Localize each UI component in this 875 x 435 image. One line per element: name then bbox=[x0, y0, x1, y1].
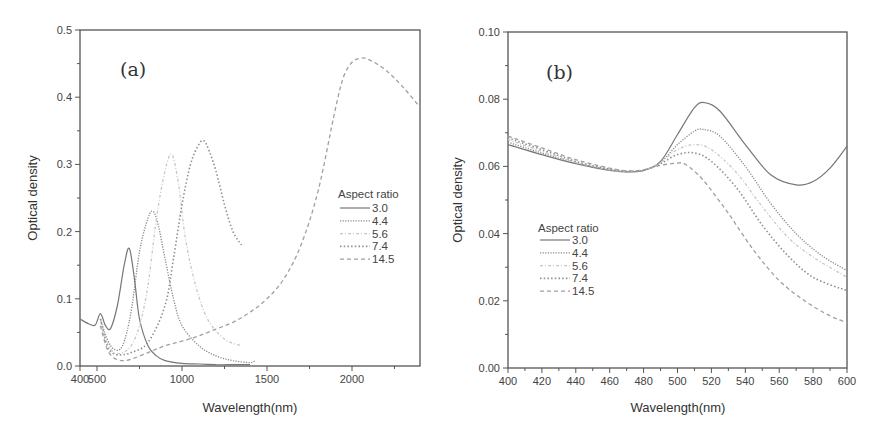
legend-item-label: 3.0 bbox=[372, 202, 388, 214]
y-tick-label: 0.06 bbox=[479, 160, 500, 172]
panel-b-label: (b) bbox=[546, 61, 573, 83]
panel-b: 0.000.020.040.060.080.104004204404604805… bbox=[450, 26, 856, 415]
y-tick-label: 0.2 bbox=[57, 226, 72, 238]
x-tick-label: 460 bbox=[601, 375, 619, 387]
legend-item-label: 5.6 bbox=[572, 260, 588, 272]
legend-item-label: 14.5 bbox=[572, 285, 594, 297]
panel-a-series bbox=[80, 58, 420, 365]
y-tick-label: 0.08 bbox=[479, 93, 500, 105]
panel-a-legend: Aspect ratio 3.04.45.67.414.5 bbox=[338, 188, 399, 265]
series-line-7-4 bbox=[508, 138, 847, 291]
x-tick-label: 1000 bbox=[170, 373, 194, 385]
legend-item-label: 7.4 bbox=[572, 272, 589, 284]
panel-a: 0.00.10.20.30.40.5400500100015002000 (a)… bbox=[25, 24, 420, 415]
x-tick-label: 420 bbox=[533, 375, 551, 387]
x-tick-label: 520 bbox=[702, 375, 720, 387]
y-tick-label: 0.1 bbox=[57, 293, 72, 305]
x-tick-label: 400 bbox=[71, 373, 89, 385]
x-tick-label: 400 bbox=[499, 375, 517, 387]
y-tick-label: 0.02 bbox=[479, 295, 500, 307]
x-tick-label: 540 bbox=[736, 375, 754, 387]
legend-item-label: 4.4 bbox=[372, 215, 389, 227]
x-tick-label: 560 bbox=[770, 375, 788, 387]
y-tick-label: 0.5 bbox=[57, 24, 72, 36]
panel-a-legend-title: Aspect ratio bbox=[338, 188, 399, 200]
y-tick-label: 0.10 bbox=[479, 26, 500, 38]
legend-item-label: 5.6 bbox=[372, 228, 388, 240]
x-tick-label: 1500 bbox=[255, 373, 279, 385]
x-tick-label: 500 bbox=[668, 375, 686, 387]
series-line-3-0 bbox=[508, 102, 847, 185]
panel-b-series bbox=[508, 102, 847, 322]
x-tick-label: 440 bbox=[567, 375, 585, 387]
x-tick-label: 600 bbox=[838, 375, 856, 387]
y-tick-label: 0.4 bbox=[57, 91, 72, 103]
x-tick-label: 480 bbox=[634, 375, 652, 387]
series-line-7-4 bbox=[100, 140, 241, 354]
y-tick-label: 0.04 bbox=[479, 228, 500, 240]
panel-b-legend: Aspect ratio 3.04.45.67.414.5 bbox=[538, 222, 599, 297]
series-line-5-6 bbox=[100, 154, 241, 354]
panel-b-axes: 0.000.020.040.060.080.104004204404604805… bbox=[479, 26, 857, 387]
x-tick-label: 500 bbox=[88, 373, 106, 385]
panel-a-x-axis-title: Wavelength(nm) bbox=[203, 400, 298, 415]
y-tick-label: 0.3 bbox=[57, 158, 72, 170]
panel-b-x-axis-title: Wavelength(nm) bbox=[631, 400, 726, 415]
panel-b-legend-title: Aspect ratio bbox=[538, 222, 599, 234]
y-tick-label: 0.00 bbox=[479, 362, 500, 374]
series-line-5-6 bbox=[508, 140, 847, 278]
y-tick-label: 0.0 bbox=[57, 360, 72, 372]
figure: 0.00.10.20.30.40.5400500100015002000 (a)… bbox=[0, 0, 875, 435]
legend-item-label: 4.4 bbox=[572, 247, 589, 259]
panel-a-axes: 0.00.10.20.30.40.5400500100015002000 bbox=[57, 24, 420, 385]
x-tick-label: 2000 bbox=[340, 373, 364, 385]
panel-a-y-axis-title: Optical density bbox=[25, 155, 40, 241]
panel-b-y-axis-title: Optical density bbox=[450, 157, 465, 243]
panel-a-label: (a) bbox=[120, 58, 146, 80]
legend-item-label: 3.0 bbox=[572, 234, 588, 246]
legend-item-label: 14.5 bbox=[372, 253, 394, 265]
legend-item-label: 7.4 bbox=[372, 240, 389, 252]
x-tick-label: 580 bbox=[804, 375, 822, 387]
series-line-4-4 bbox=[508, 129, 847, 271]
